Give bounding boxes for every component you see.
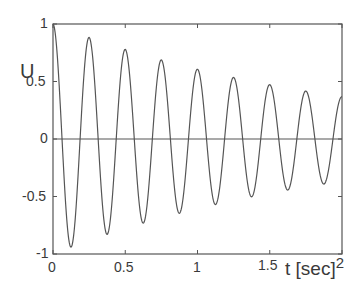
x-tick-label-0: 0 (48, 259, 56, 275)
y-tick-label-neg-0.5: -0.5 (22, 188, 46, 204)
x-tick-label-1.5: 1.5 (258, 257, 277, 273)
y-tick-label-1: 1 (40, 15, 48, 31)
x-axis-label-text: t [sec] (285, 258, 336, 279)
x-axis-max-tick: 2 (336, 254, 344, 271)
x-tick-label-0.5: 0.5 (114, 259, 133, 275)
line-chart (0, 0, 360, 296)
y-tick-label-0.5: 0.5 (26, 73, 45, 89)
y-tick-label-0: 0 (40, 130, 48, 146)
data-series-u (53, 24, 342, 247)
x-tick-label-1: 1 (193, 259, 201, 275)
x-axis-label: t [sec]2 (285, 254, 344, 280)
y-tick-label-neg-1: -1 (36, 245, 48, 261)
